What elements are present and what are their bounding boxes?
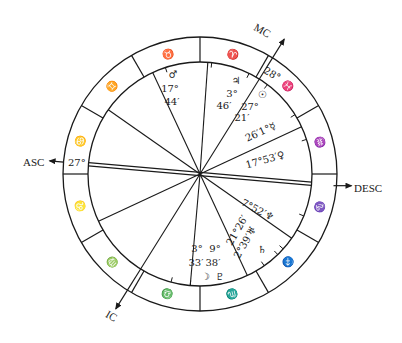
house-cusp-line (200, 62, 208, 174)
jupiter-deg-label: 3° (226, 88, 237, 99)
sun-label: ☉ (258, 89, 267, 100)
moon-min-label: 33′ (189, 257, 205, 268)
libra-sign-icon: ♎ (160, 286, 175, 302)
sagittarius-sign-icon: ♐ (279, 253, 297, 271)
zodiac-divider (132, 55, 145, 77)
planet-tick (299, 214, 304, 216)
sun-min-label: 21′ (235, 112, 251, 123)
leo-sign-icon: ♌ (72, 199, 88, 214)
mars-min-label: 44′ (165, 96, 181, 107)
taurus-sign-icon: ♉ (160, 46, 175, 62)
house-cusp-line (190, 174, 200, 286)
pisces-sign-icon: ♓ (279, 77, 297, 95)
pluto-deg-label: 9° (209, 243, 220, 254)
asc-arrow-icon (50, 161, 64, 162)
sun-deg-label: 27° (241, 101, 259, 112)
mc-degree: 28° (262, 65, 283, 83)
jupiter-label: ♃ (232, 75, 241, 86)
venus-label: 17°53′♀ (244, 149, 286, 171)
ic-arrow-icon (116, 269, 141, 309)
planet-tick (171, 277, 172, 282)
gemini-sign-icon: ♊ (103, 77, 121, 95)
jupiter-min-label: 46′ (217, 100, 233, 111)
asc-label: ASC (23, 156, 44, 168)
saturn-label: ♄ (258, 244, 267, 255)
aries-sign-icon: ♈ (225, 46, 240, 62)
planet-tick (261, 262, 264, 266)
planet-tick (211, 63, 212, 68)
desc-label: DESC (354, 182, 382, 194)
zodiac-divider (297, 106, 319, 119)
natal-chart-wheel: ♈♉♊♋♌♍♎♏♐♑♒♓ ASC 27° MC 28° DESC IC ♂17°… (0, 0, 402, 343)
cancer-sign-icon: ♋ (72, 134, 88, 149)
zodiac-divider (81, 106, 103, 119)
moon-label: ☽ (201, 271, 210, 282)
ic-label: IC (104, 308, 120, 324)
planet-tick (165, 67, 167, 72)
planet-tick (247, 73, 249, 77)
scorpio-sign-icon: ♏ (225, 286, 240, 302)
planet-tick (291, 115, 295, 118)
pluto-label: ♇ (216, 271, 225, 282)
mc-label: MC (252, 21, 273, 40)
moon-deg-label: 3° (191, 243, 202, 254)
pluto-min-label: 38′ (206, 257, 222, 268)
asc-degree: 27° (68, 157, 86, 168)
zodiac-divider (297, 230, 319, 243)
planet-labels: ♂17°44′♃3°46′☉27°21′26′1°☿17°53′♀7°52′♆2… (161, 69, 286, 282)
mars-label: ♂ (169, 69, 178, 80)
zodiac-divider (81, 230, 103, 243)
planet-tick (280, 246, 284, 249)
planet-tick (302, 139, 307, 141)
mars-deg-label: 17° (161, 83, 179, 94)
virgo-sign-icon: ♍ (103, 253, 121, 271)
zodiac-divider (256, 271, 269, 293)
planet-tick (274, 251, 277, 255)
aquarius-sign-icon: ♒ (312, 134, 328, 149)
capricorn-sign-icon: ♑ (312, 199, 328, 214)
house-cusp-line (108, 110, 200, 174)
planet-tick (264, 85, 267, 89)
